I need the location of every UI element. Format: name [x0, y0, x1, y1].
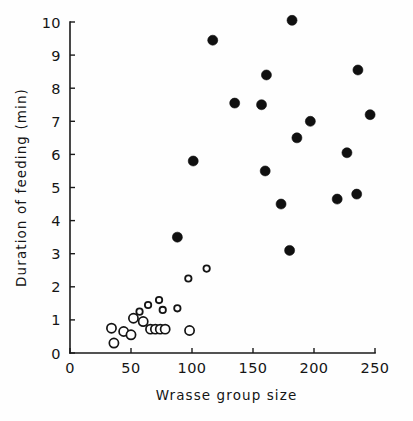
- x-tick-label: 100: [178, 360, 207, 376]
- y-tick-label: 3: [51, 246, 61, 262]
- x-tick-label: 250: [361, 360, 390, 376]
- y-tick-label: 8: [51, 81, 61, 97]
- data-point: [129, 314, 138, 323]
- y-axis-title: Duration of feeding (min): [13, 88, 29, 287]
- data-point: [172, 232, 182, 242]
- y-tick-label: 2: [51, 279, 61, 295]
- data-point: [365, 110, 375, 120]
- x-tick-label: 200: [300, 360, 329, 376]
- scatter-plot-figure: 012345678910050100150200250 Wrasse group…: [0, 0, 413, 421]
- y-tick-label: 5: [51, 180, 61, 196]
- data-point: [342, 148, 352, 158]
- data-point: [109, 338, 118, 347]
- data-point: [287, 15, 297, 25]
- data-point: [208, 35, 218, 45]
- data-point: [185, 275, 191, 281]
- x-tick-label: 150: [239, 360, 268, 376]
- data-point: [230, 98, 240, 108]
- y-tick-label: 7: [51, 114, 61, 130]
- y-tick-label: 9: [51, 48, 61, 64]
- y-tick-label: 6: [51, 147, 61, 163]
- data-point: [285, 245, 295, 255]
- data-point: [203, 265, 209, 271]
- data-point: [352, 189, 362, 199]
- data-point: [174, 305, 180, 311]
- x-axis-title: Wrasse group size: [156, 387, 298, 403]
- data-point: [257, 100, 267, 110]
- data-point: [292, 133, 302, 143]
- data-point: [156, 297, 162, 303]
- data-point: [160, 307, 166, 313]
- data-points-group: [107, 15, 375, 347]
- data-point: [261, 70, 271, 80]
- data-point: [139, 317, 148, 326]
- data-point: [126, 330, 135, 339]
- x-tick-label: 0: [65, 360, 75, 376]
- data-point: [188, 156, 198, 166]
- data-point: [260, 166, 270, 176]
- data-point: [136, 308, 142, 314]
- data-point: [107, 324, 116, 333]
- data-point: [305, 116, 315, 126]
- y-tick-label: 1: [51, 312, 61, 328]
- data-point: [185, 326, 194, 335]
- axes-group: [70, 22, 375, 353]
- y-tick-label: 4: [51, 213, 61, 229]
- data-point: [161, 325, 170, 334]
- x-tick-label: 50: [121, 360, 140, 376]
- y-tick-label: 0: [51, 346, 61, 362]
- data-point: [353, 65, 363, 75]
- data-point: [332, 194, 342, 204]
- data-point: [145, 302, 151, 308]
- data-point: [276, 199, 286, 209]
- plot-canvas: 012345678910050100150200250 Wrasse group…: [0, 0, 413, 421]
- y-tick-label: 10: [42, 15, 61, 31]
